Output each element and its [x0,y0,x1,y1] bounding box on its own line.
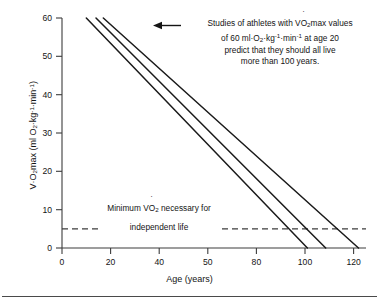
figure-container: 0 10 20 30 40 50 60 0 20 40 50 80 100 12… [0,0,379,305]
x-tick-label-40: 40 [144,257,174,267]
x-tick-label-0: 0 [47,257,77,267]
annotation-line-2-part-b: ·kg [263,33,275,43]
annotation-line-2-part-d: at age 20 [302,33,339,43]
y-axis-ticks [56,18,62,248]
annotation-line-3: predict that they should all live [186,45,374,56]
threshold-label-line-1: Minimum VO2 necessary for [84,203,234,213]
y-axis-title-close-paren: ) [28,81,38,84]
y-axis-title-mid: max (ml O [28,129,38,171]
annotation-line-2-part-a: of 60 ml·O [221,33,260,43]
y-axis-title: V·O2max (ml O2·kg-1·min-1) [28,30,39,240]
y-tick-label-60: 60 [22,13,52,23]
threshold-vdot-icon: O [149,203,155,213]
annotation-line-2: of 60 ml·O2·kg-1·min-1 at age 20 [186,30,374,45]
x-tick-label-20: 20 [96,257,126,267]
threshold-label-line-2: independent life [99,222,219,232]
annotation-arrow-icon [153,22,181,29]
y-axis-title-sup-kg: -1 [28,107,35,113]
threshold-label-part-a: Minimum V [107,203,149,213]
y-tick-label-0: 0 [22,243,52,253]
annotation-vdot-icon: O [301,18,307,29]
y-axis-title-prefix: V·O [28,174,38,190]
annotation-line-1: Studies of athletes with VO2max values [186,18,374,30]
x-tick-label-100: 100 [290,257,320,267]
annotation-line-1-part-b: O [301,18,307,28]
x-tick-label-120: 120 [339,257,369,267]
chart-annotation: Studies of athletes with VO2max values o… [186,18,374,67]
x-tick-label-80: 80 [241,257,271,267]
annotation-line-4: more than 100 years. [186,56,374,67]
x-tick-label-60: 50 [193,257,223,267]
y-axis-title-units-min: ·min [28,90,38,108]
y-axis-title-units-kg: ·kg [28,113,38,126]
y-axis-title-sub-o2: 2 [31,170,38,173]
threshold-label-part-c: necessary for [159,203,211,213]
x-axis-ticks [62,248,354,254]
threshold-label-part-b: O [149,203,155,213]
x-axis-title: Age (years) [0,274,379,284]
footer-divider [2,296,377,297]
y-axis-title-sup-min: -1 [28,84,35,90]
annotation-line-1-part-a: Studies of athletes with V [207,18,300,28]
annotation-line-2-part-c: ·min [280,33,296,43]
y-axis-title-sub-o2-b: 2 [31,125,38,128]
annotation-line-1-part-c: max values [311,18,353,28]
